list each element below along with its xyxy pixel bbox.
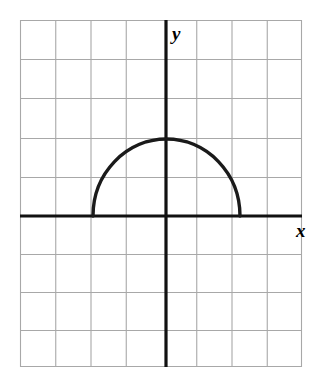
y-axis-label: y xyxy=(172,24,180,43)
coordinate-graph-figure: y x xyxy=(0,0,333,388)
coordinate-plane-svg xyxy=(0,0,333,388)
plot-background xyxy=(20,20,302,367)
x-axis-label: x xyxy=(296,221,306,240)
